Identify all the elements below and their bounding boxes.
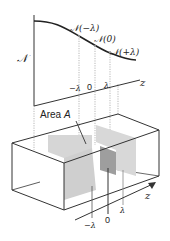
box-z-label: z bbox=[144, 190, 151, 201]
curve-label-plus-lambda: 𝒩(+λ) bbox=[110, 47, 140, 57]
density-graph: 𝒩 𝒩(−λ) 𝒩(0) 𝒩(+λ) −λ 0 λ z bbox=[17, 15, 146, 150]
box-tick-lambda: λ bbox=[119, 206, 125, 215]
area-label: Area A bbox=[40, 109, 71, 120]
area-label-text: Area bbox=[40, 109, 64, 120]
volume-box: z −λ 0 λ Area A bbox=[12, 109, 159, 230]
y-axis-label: 𝒩 bbox=[17, 52, 31, 65]
graph-tick-zero: 0 bbox=[87, 82, 92, 92]
graph-z-label: z bbox=[139, 77, 146, 88]
box-tick-minus-lambda: −λ bbox=[84, 221, 96, 230]
box-back-left-bottom-edge bbox=[12, 182, 40, 190]
box-bottom-left-edge bbox=[12, 190, 64, 210]
graph-tick-minus-lambda: −λ bbox=[69, 84, 81, 93]
curve-label-minus-lambda: 𝒩(−λ) bbox=[70, 23, 100, 33]
graph-tick-lambda: λ bbox=[103, 81, 109, 90]
box-tick-zero: 0 bbox=[105, 215, 110, 225]
curve-point-minus-lambda bbox=[78, 35, 80, 37]
diagram-canvas: 𝒩 𝒩(−λ) 𝒩(0) 𝒩(+λ) −λ 0 λ z z −λ 0 bbox=[0, 0, 170, 241]
curve-label-zero: 𝒩(0) bbox=[94, 34, 116, 44]
area-label-var: A bbox=[63, 109, 71, 120]
curve-point-zero bbox=[94, 45, 96, 47]
